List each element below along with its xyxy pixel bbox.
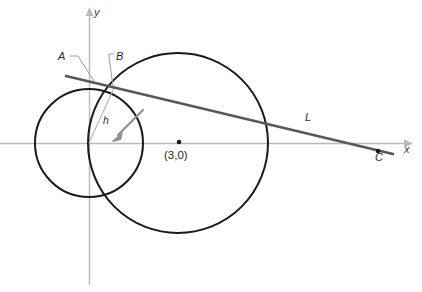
label-line-l: L [305, 112, 311, 123]
label-point-c: C [375, 152, 383, 163]
label-point-a: A [58, 51, 65, 62]
center-point-marker [177, 140, 182, 145]
label-point-b: B [116, 51, 123, 62]
line-L-stroke [66, 76, 393, 154]
label-segment-h: h [103, 115, 109, 126]
label-center-coordinate: (3,0) [164, 150, 188, 162]
y-axis-arrowhead [86, 7, 94, 16]
figure-canvas [0, 0, 422, 292]
geometry-figure: A B C L h (3,0) x y [0, 0, 422, 292]
label-x-axis: x [404, 144, 410, 155]
label-y-axis: y [94, 7, 100, 18]
pointer-arrow-head [112, 132, 123, 142]
